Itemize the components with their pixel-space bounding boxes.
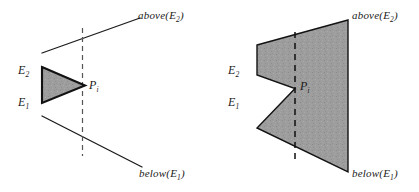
- left-above-fn-name: above: [138, 9, 165, 21]
- right-below-subscript: 1: [390, 173, 394, 182]
- left-point-P-subscript: i: [97, 85, 99, 94]
- left-wedge-polygon: [42, 67, 85, 103]
- right-above-close-paren: ): [394, 9, 398, 21]
- right-point-P-subscript: i: [308, 86, 310, 95]
- left-below-subscript: 1: [177, 173, 181, 182]
- left-below-label: below(E1): [139, 168, 185, 179]
- right-edge-E2-label: E2: [228, 64, 239, 76]
- left-below-ray: [42, 116, 142, 167]
- right-region-polygon: [257, 20, 348, 172]
- right-above-fn-name: above: [352, 9, 379, 21]
- right-edge-E2-letter: E: [228, 63, 236, 77]
- right-above-subscript: 2: [390, 15, 394, 24]
- right-point-P-label: Pi: [300, 80, 310, 92]
- right-below-fn-name: below: [352, 167, 379, 179]
- figure-vector-canvas: [0, 0, 419, 192]
- left-below-fn-name: below: [139, 167, 166, 179]
- left-edge-E1-letter: E: [18, 95, 26, 109]
- right-above-label: above(E2): [352, 10, 398, 21]
- left-diagram-group: [42, 18, 142, 167]
- left-above-label: above(E2): [138, 10, 184, 21]
- left-edge-E2-subscript: 2: [26, 70, 30, 79]
- right-below-close-paren: ): [394, 167, 398, 179]
- left-below-close-paren: ): [181, 167, 185, 179]
- right-diagram-group: [257, 20, 348, 172]
- right-edge-E1-label: E1: [228, 96, 239, 108]
- right-edge-E2-subscript: 2: [236, 70, 240, 79]
- right-below-label: below(E1): [352, 168, 398, 179]
- right-edge-E1-letter: E: [228, 95, 236, 109]
- left-edge-E1-subscript: 1: [26, 102, 30, 111]
- right-edge-E1-subscript: 1: [236, 102, 240, 111]
- left-edge-E2-label: E2: [18, 64, 29, 76]
- left-point-P-label: Pi: [89, 79, 99, 91]
- figure-container: above(E2) below(E1) E2 E1 Pi above(E2) b…: [0, 0, 419, 192]
- left-edge-E2-letter: E: [18, 63, 26, 77]
- left-point-P-letter: P: [89, 78, 97, 92]
- left-above-ray: [42, 18, 140, 53]
- left-above-subscript: 2: [176, 15, 180, 24]
- right-point-P-letter: P: [300, 79, 308, 93]
- left-edge-E1-label: E1: [18, 96, 29, 108]
- left-above-close-paren: ): [180, 9, 184, 21]
